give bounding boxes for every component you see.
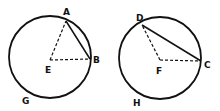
radius-EB [50, 59, 90, 60]
arc-label-G: G [22, 96, 29, 106]
arc-label-H: H [133, 98, 141, 108]
right-circle-figure: D C F H [119, 13, 211, 108]
radius-FC [160, 60, 201, 61]
point-label-B: B [93, 55, 100, 65]
left-circle-figure: A B E G [9, 7, 100, 106]
chord-DC [142, 25, 201, 61]
left-circle [9, 16, 91, 98]
point-label-C: C [204, 60, 211, 70]
point-label-D: D [136, 13, 143, 23]
point-label-A: A [63, 7, 70, 17]
center-label-E: E [45, 65, 51, 75]
right-circle [119, 17, 201, 99]
radius-EA [50, 21, 66, 60]
geometry-diagram: A B E G D C F H [0, 0, 220, 111]
center-label-F: F [156, 66, 162, 76]
